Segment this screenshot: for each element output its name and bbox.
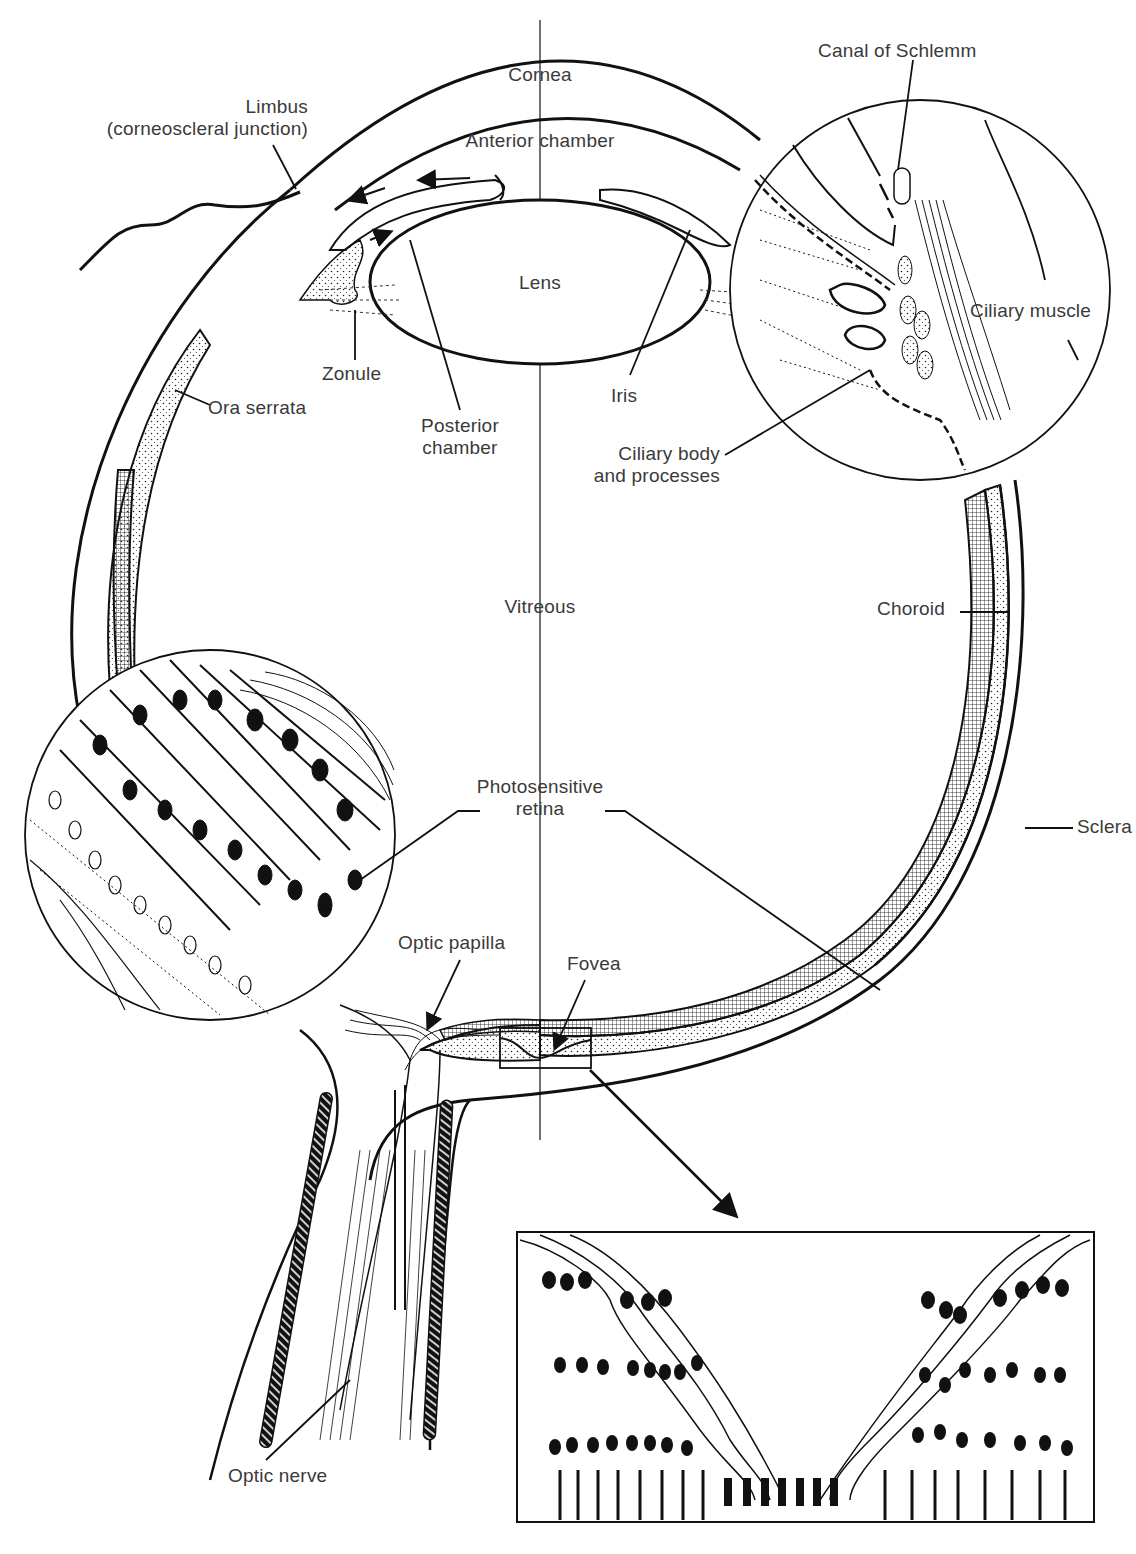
label-photosensitive-retina-line1: Photosensitive [470, 776, 610, 798]
label-photosensitive-retina: Photosensitive retina [470, 776, 610, 820]
label-posterior-chamber: Posterior chamber [410, 415, 510, 459]
label-optic-papilla: Optic papilla [398, 932, 505, 954]
conjunctiva [80, 192, 300, 270]
label-canal-of-schlemm: Canal of Schlemm [818, 40, 976, 62]
label-iris: Iris [611, 385, 637, 407]
label-anterior-chamber: Anterior chamber [440, 130, 640, 152]
label-cornea: Cornea [490, 64, 590, 86]
label-lens: Lens [500, 272, 580, 294]
label-zonule: Zonule [322, 363, 381, 385]
label-ciliary-body: Ciliary body and processes [580, 443, 720, 487]
optic-nerve [210, 1005, 500, 1480]
label-ciliary-muscle: Ciliary muscle [970, 300, 1091, 322]
ciliary-inset-circle [730, 100, 1110, 480]
label-choroid: Choroid [877, 598, 945, 620]
label-fovea: Fovea [567, 953, 621, 975]
label-limbus-line2: (corneoscleral junction) [70, 118, 308, 140]
fovea-inset-box [517, 1232, 1094, 1522]
label-vitreous: Vitreous [490, 596, 590, 618]
label-photosensitive-retina-line2: retina [470, 798, 610, 820]
label-limbus-line1: Limbus [70, 96, 308, 118]
label-optic-nerve: Optic nerve [228, 1465, 327, 1487]
label-ora-serrata: Ora serrata [208, 397, 306, 419]
label-limbus: Limbus (corneoscleral junction) [70, 96, 308, 140]
label-posterior-chamber-line1: Posterior [410, 415, 510, 437]
label-ciliary-body-line1: Ciliary body [580, 443, 720, 465]
label-sclera: Sclera [1077, 816, 1132, 838]
sclera-outer-right [370, 480, 1023, 1180]
label-posterior-chamber-line2: chamber [410, 437, 510, 459]
eye-diagram: Cornea Limbus (corneoscleral junction) A… [0, 0, 1136, 1554]
label-ciliary-body-line2: and processes [580, 465, 720, 487]
